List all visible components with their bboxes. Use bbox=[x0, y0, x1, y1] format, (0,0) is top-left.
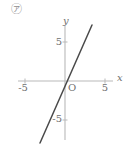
y-axis-label: y bbox=[63, 15, 69, 26]
x-tick-label-negative-five: -5 bbox=[14, 82, 32, 93]
y-tick-label-positive-five: 5 bbox=[48, 36, 62, 47]
x-axis-label: x bbox=[117, 72, 123, 83]
x-tick-label-positive-five: 5 bbox=[98, 82, 112, 93]
y-tick-label-negative-five: -5 bbox=[44, 113, 62, 124]
origin-label: O bbox=[68, 82, 76, 93]
figure-container: ㋐ y x O -5 5 5 -5 bbox=[0, 0, 133, 145]
